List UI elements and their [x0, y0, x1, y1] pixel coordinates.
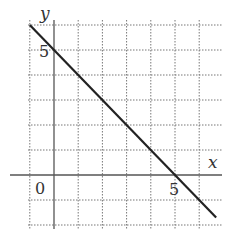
data-line [30, 25, 216, 218]
y-tick-label-5: 5 [39, 42, 49, 61]
x-tick-label-5: 5 [169, 180, 179, 199]
y-axis-label: y [39, 3, 50, 23]
origin-label: 0 [35, 179, 45, 198]
x-axis-label: x [208, 152, 218, 172]
line-graph: y x 0 5 5 [0, 0, 227, 229]
